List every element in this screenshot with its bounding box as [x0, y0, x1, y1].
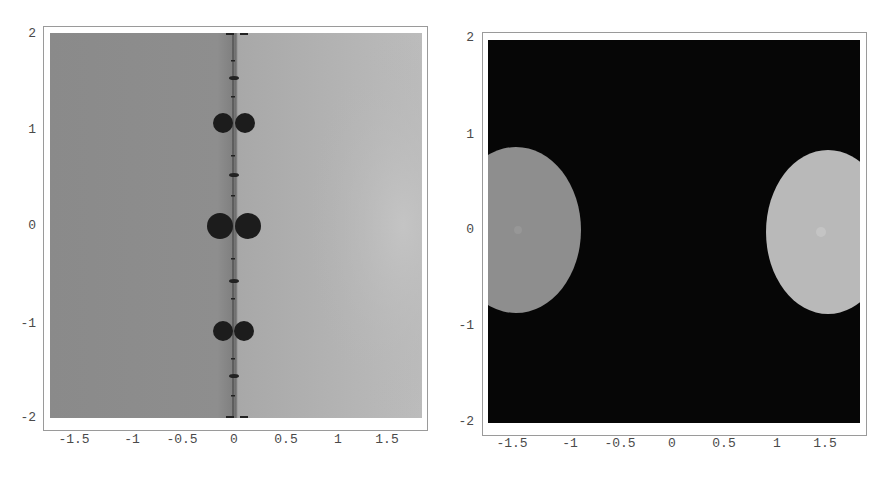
y-tick-label: 1 — [446, 127, 474, 142]
y-tick-label: 0 — [8, 218, 36, 233]
x-tick-label: -1 — [550, 436, 590, 451]
y-tick-label: 2 — [446, 30, 474, 45]
x-tick-label: 1 — [757, 436, 797, 451]
x-tick-label: 0 — [652, 436, 692, 451]
y-tick-label: -1 — [8, 316, 36, 331]
left-density-plot — [50, 33, 422, 418]
x-tick-label: 0.5 — [266, 432, 306, 447]
right-density-plot — [488, 40, 860, 423]
x-tick-label: 1.5 — [367, 432, 407, 447]
y-tick-label: -2 — [446, 414, 474, 429]
x-tick-label: -0.5 — [162, 432, 202, 447]
right-plot-panel: 2 1 0 -1 -2 -1.5 -1 -0.5 0 0.5 1 1.5 — [440, 0, 889, 479]
x-tick-label: -1.5 — [54, 432, 94, 447]
x-tick-label: 0.5 — [704, 436, 744, 451]
x-tick-label: -1 — [112, 432, 152, 447]
x-tick-label: -0.5 — [600, 436, 640, 451]
left-plot-panel: 2 1 0 -1 -2 -1.5 -1 -0.5 0 0.5 1 1.5 — [0, 0, 445, 479]
y-tick-label: 2 — [8, 26, 36, 41]
y-tick-label: 0 — [446, 222, 474, 237]
y-tick-label: 1 — [8, 122, 36, 137]
x-tick-label: 1 — [318, 432, 358, 447]
x-tick-label: -1.5 — [492, 436, 532, 451]
y-tick-label: -1 — [446, 318, 474, 333]
x-tick-label: 1.5 — [805, 436, 845, 451]
x-tick-label: 0 — [214, 432, 254, 447]
y-tick-label: -2 — [8, 410, 36, 425]
